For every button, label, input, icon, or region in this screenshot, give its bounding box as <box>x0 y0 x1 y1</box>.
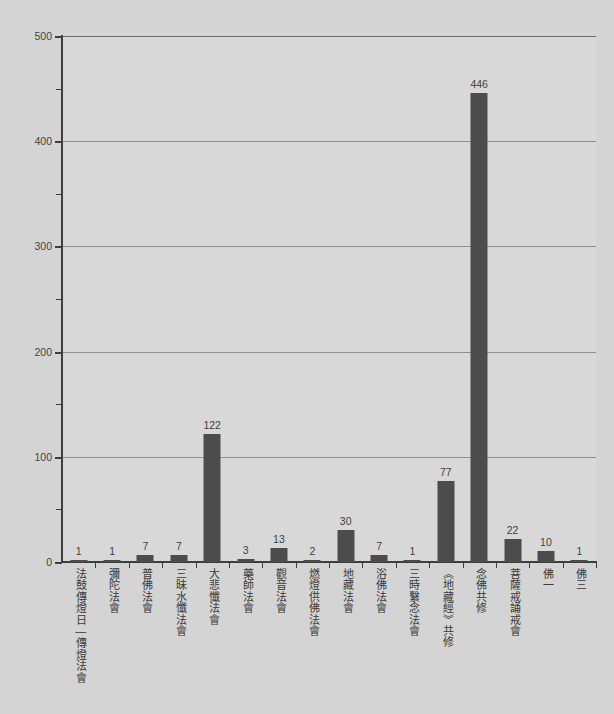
bar-value-label: 7 <box>176 541 182 552</box>
bar-value-label: 2 <box>309 546 315 557</box>
category-label: 佛一 <box>539 568 553 591</box>
y-axis-tick-label: 500 <box>6 31 52 41</box>
bar-value-label: 13 <box>273 534 285 545</box>
bar-value-label: 1 <box>576 546 582 557</box>
bar-column: 30 <box>329 36 362 562</box>
category-label: 法鼓傳燈日—傳燈法會 <box>72 568 86 683</box>
category-label: 三時繫念法會 <box>405 568 419 636</box>
y-tick-major <box>55 246 62 248</box>
bar <box>404 560 421 562</box>
bar-column: 77 <box>429 36 462 562</box>
bar-value-label: 7 <box>376 541 382 552</box>
y-axis-tick-label: 300 <box>6 241 52 251</box>
x-axis-category-labels: 法鼓傳燈日—傳燈法會彌陀法會普佛法會三昧水懺法會大悲懺法會藥師法會觀音法會燃燈供… <box>62 568 596 714</box>
bar-value-label: 22 <box>507 525 519 536</box>
bar-series: 1177122313230717744622101 <box>62 36 596 562</box>
category-label: 燃燈供佛法會 <box>305 568 319 636</box>
bar-value-label: 10 <box>540 537 552 548</box>
y-tick-major <box>55 141 62 143</box>
bar <box>304 560 321 562</box>
category-label: 佛三 <box>572 568 586 591</box>
category-label: 大悲懺法會 <box>205 568 219 625</box>
category-label: 觀音法會 <box>272 568 286 614</box>
y-tick-major <box>55 352 62 354</box>
bar-value-label: 1 <box>76 546 82 557</box>
bar-column: 1 <box>396 36 429 562</box>
bar-column: 7 <box>162 36 195 562</box>
category-label: 念佛共修 <box>472 568 486 614</box>
bar-column: 10 <box>529 36 562 562</box>
category-label: 地藏法會 <box>339 568 353 614</box>
y-axis-tick-label: 0 <box>6 557 52 567</box>
y-axis-tick-label: 200 <box>6 347 52 357</box>
bar-value-label: 7 <box>143 541 149 552</box>
y-tick-major <box>55 457 62 459</box>
category-label: 浴佛法會 <box>372 568 386 614</box>
bar-value-label: 3 <box>243 545 249 556</box>
bar <box>137 555 154 562</box>
bar <box>504 539 521 562</box>
bar <box>270 548 287 562</box>
bar <box>471 93 488 562</box>
bar <box>371 555 388 562</box>
bar <box>170 555 187 562</box>
category-label: 菩薩戒誦戒會 <box>506 568 520 636</box>
bar-value-label: 30 <box>340 516 352 527</box>
category-label: 藥師法會 <box>239 568 253 614</box>
bar-column: 446 <box>463 36 496 562</box>
y-tick-major <box>55 36 62 38</box>
x-tick <box>596 563 597 568</box>
bar-value-label: 446 <box>470 79 488 90</box>
bar-value-label: 1 <box>410 546 416 557</box>
y-axis-tick-label: 100 <box>6 452 52 462</box>
bar-value-label: 77 <box>440 467 452 478</box>
bar <box>537 551 554 562</box>
bar-column: 1 <box>95 36 128 562</box>
y-tick-major <box>55 562 62 564</box>
bar-column: 3 <box>229 36 262 562</box>
bar <box>237 559 254 562</box>
bar-value-label: 122 <box>203 420 221 431</box>
bar <box>104 560 121 562</box>
bar <box>204 434 221 562</box>
bar <box>571 560 588 562</box>
category-label: 三昧水懺法會 <box>172 568 186 636</box>
category-label: 彌陀法會 <box>105 568 119 614</box>
bar-column: 7 <box>129 36 162 562</box>
bar-column: 1 <box>62 36 95 562</box>
category-label: 《地藏經》共修 <box>439 568 453 648</box>
bar-column: 22 <box>496 36 529 562</box>
category-label: 普佛法會 <box>138 568 152 614</box>
bar-column: 2 <box>296 36 329 562</box>
bar <box>70 560 87 562</box>
bar-chart: 0100200300400500 11771223132307177446221… <box>0 0 614 714</box>
bar <box>437 481 454 562</box>
bar-column: 122 <box>196 36 229 562</box>
y-axis-labels: 0100200300400500 <box>0 0 52 714</box>
bar-column: 13 <box>262 36 295 562</box>
y-axis-tick-label: 400 <box>6 136 52 146</box>
bar-column: 7 <box>362 36 395 562</box>
bar <box>337 530 354 562</box>
bar-value-label: 1 <box>109 546 115 557</box>
bar-column: 1 <box>563 36 596 562</box>
